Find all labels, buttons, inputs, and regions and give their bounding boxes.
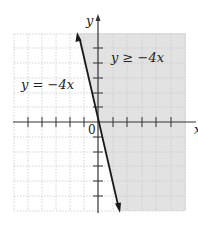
inequality-graph: y x 0 y ≥ −4x y = −4x bbox=[0, 0, 198, 227]
y-axis-arrow-icon bbox=[96, 14, 101, 21]
y-axis-label: y bbox=[85, 13, 94, 28]
origin-label: 0 bbox=[88, 123, 96, 137]
line-arrow-down-icon bbox=[115, 203, 121, 214]
boundary-line-label: y = −4x bbox=[20, 77, 75, 92]
x-axis-label: x bbox=[194, 122, 198, 137]
inequality-label: y ≥ −4x bbox=[110, 50, 165, 65]
